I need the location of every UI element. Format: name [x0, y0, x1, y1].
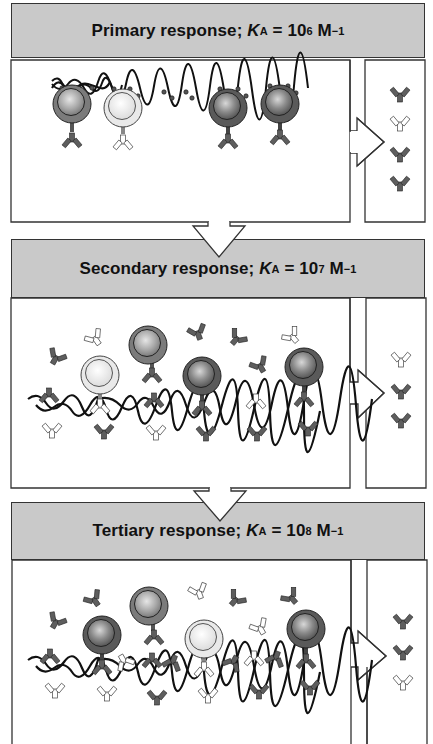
down-arrow — [194, 485, 246, 521]
down-arrow — [193, 219, 245, 257]
diagram-canvas — [0, 0, 433, 744]
primary-panel — [11, 52, 425, 222]
tertiary-panel — [12, 560, 427, 744]
secondary-panel — [11, 298, 426, 488]
